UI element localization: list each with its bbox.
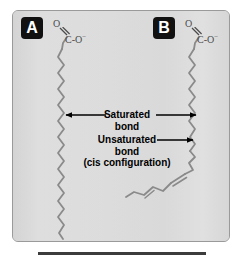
headgroup-a-carbon: C (65, 34, 72, 45)
chain-b-cis-double-bond-line-2 (173, 178, 187, 187)
panel-b-badge: B (153, 17, 175, 39)
figure-panel: A B O C-O− O C-O− Saturated bond U (12, 10, 230, 242)
chain-b-cis-double-bond-line-1 (171, 174, 185, 183)
saturated-bond-line-1: Saturated (92, 109, 162, 121)
unsaturated-bond-line-3: (cis configuration) (69, 157, 185, 169)
unsaturated-bond-annotation: Unsaturated bond (cis configuration) (69, 134, 185, 169)
chain-b-lower-double-bond-accent (145, 191, 154, 199)
unsaturated-bond-line-2: bond (69, 146, 185, 158)
headgroup-b-negative-charge: − (214, 33, 218, 41)
panel-b-badge-label: B (158, 19, 170, 36)
panel-a-badge: A (21, 17, 43, 39)
headgroup-b-carbon: C (197, 34, 204, 45)
panel-a-badge-label: A (26, 19, 38, 36)
headgroup-a-formula: C-O− (65, 32, 86, 45)
headgroup-a-negative-charge: − (82, 33, 86, 41)
chain-a-saturated-tail (58, 49, 64, 239)
saturated-bond-annotation: Saturated bond (92, 109, 162, 132)
chain-b-upper-saturated-segment (189, 49, 195, 151)
headgroup-b-formula: C-O− (197, 32, 218, 45)
saturated-bond-line-2: bond (92, 121, 162, 133)
figure-root: A B O C-O− O C-O− Saturated bond U (0, 0, 242, 266)
bottom-divider-rule (38, 252, 206, 255)
chain-b-kink-segment (185, 151, 195, 174)
unsaturated-bond-line-1: Unsaturated (69, 134, 185, 146)
